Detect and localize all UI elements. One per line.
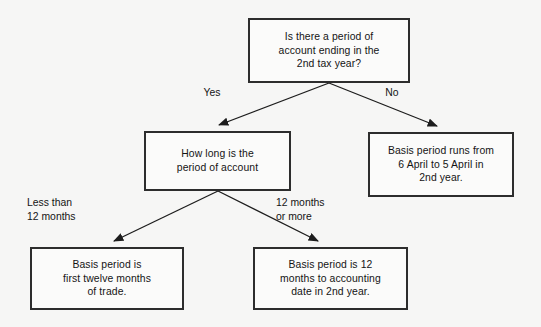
node-no-result-label: Basis period runs from 6 April to 5 Apri… — [383, 144, 499, 185]
node-how-long-question-label: How long is the period of account — [172, 147, 263, 174]
node-12-or-more-result-label: Basis period is 12 months to accounting … — [275, 258, 386, 299]
edge-howlong-to-lessthan — [114, 191, 218, 241]
node-root-question: Is there a period of account ending in t… — [248, 18, 410, 83]
node-less-than-12-result: Basis period is first twelve months of t… — [30, 247, 184, 310]
edge-label-yes: Yes — [182, 86, 242, 100]
edge-label-less-than-12-months: Less than 12 months — [27, 196, 117, 223]
edge-label-no: No — [372, 86, 412, 100]
node-root-question-label: Is there a period of account ending in t… — [274, 30, 385, 71]
node-less-than-12-result-label: Basis period is first twelve months of t… — [58, 258, 156, 299]
flowchart-canvas: Is there a period of account ending in t… — [0, 0, 541, 327]
edge-label-12-months-or-more: 12 months or more — [276, 196, 368, 223]
node-no-result: Basis period runs from 6 April to 5 Apri… — [368, 132, 514, 197]
node-12-or-more-result: Basis period is 12 months to accounting … — [253, 247, 408, 310]
node-how-long-question: How long is the period of account — [144, 131, 291, 191]
